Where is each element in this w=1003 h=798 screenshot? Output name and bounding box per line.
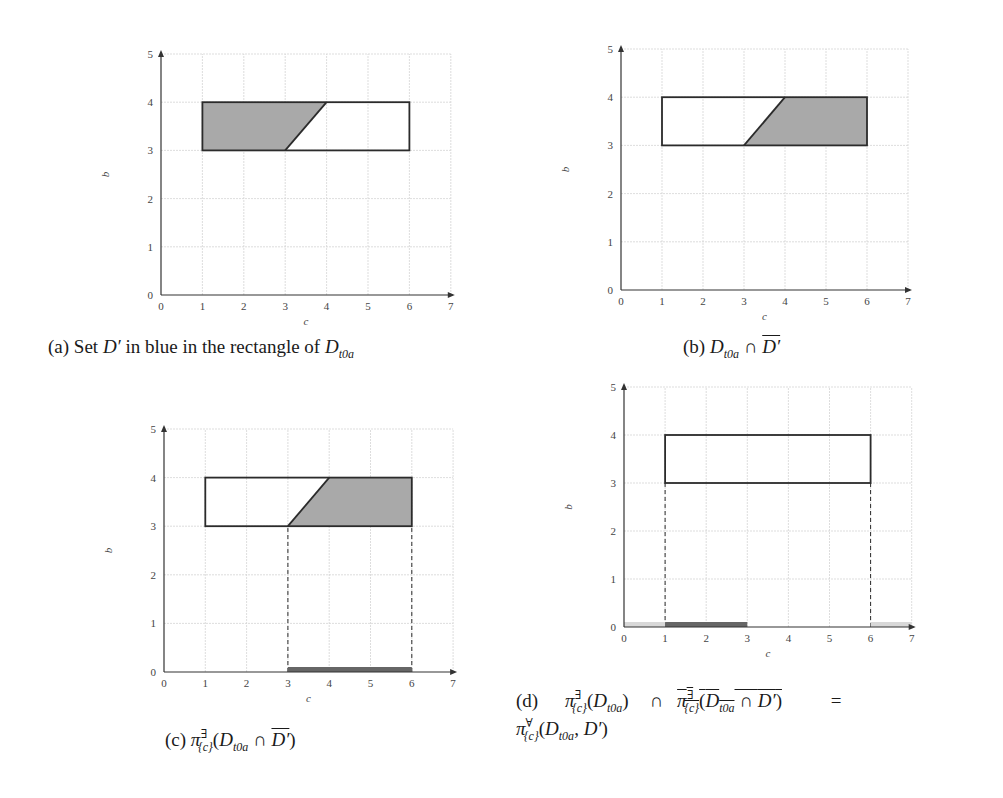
y-tick-label: 3 (148, 144, 154, 156)
caption-d-sub-3: t0a (559, 729, 574, 743)
caption-c: (c) π∃{c}(Dt0a ∩ D′) (165, 727, 296, 755)
caption-d-comma: , (574, 718, 584, 739)
rectangle-d-t0a (665, 435, 871, 483)
y-tick-label: 2 (611, 525, 617, 537)
x-tick-label: 7 (909, 632, 915, 644)
x-axis-arrow-icon (905, 287, 912, 293)
caption-d-psub-1: {c} (572, 701, 587, 715)
shaded-region (202, 102, 326, 150)
y-tick-label: 1 (151, 617, 157, 629)
x-tick-label: 7 (905, 295, 911, 307)
caption-a-base: D (325, 336, 339, 357)
x-tick-label: 0 (158, 300, 164, 312)
y-tick-label: 3 (151, 520, 157, 532)
caption-d-prefix: (d) (516, 690, 538, 711)
x-tick-label: 6 (868, 632, 874, 644)
x-tick-label: 2 (244, 677, 250, 689)
x-tick-label: 1 (662, 632, 668, 644)
caption-b-base: D (710, 336, 724, 357)
x-tick-label: 1 (200, 300, 206, 312)
x-tick-label: 7 (450, 677, 456, 689)
x-tick-label: 3 (745, 632, 751, 644)
x-axis-arrow-icon (450, 669, 457, 675)
y-axis-arrow-icon (621, 383, 627, 390)
x-tick-label: 0 (618, 295, 624, 307)
caption-d-inner-complement: D′ (758, 690, 776, 711)
caption-a-symbol: D′ (103, 336, 121, 357)
y-axis-label: b (99, 171, 111, 177)
y-tick-label: 5 (148, 48, 154, 60)
y-tick-label: 1 (611, 573, 617, 585)
subplot-b: 01234567012345cb (559, 43, 912, 322)
y-tick-label: 2 (151, 569, 157, 581)
x-tick-label: 4 (324, 300, 330, 312)
caption-d-close-1: ) (622, 690, 628, 711)
shaded-region (744, 97, 867, 145)
x-tick-label: 3 (741, 295, 747, 307)
caption-b-sub: t0a (724, 347, 739, 361)
caption-d-sup-2: ∃ (687, 688, 694, 702)
caption-d-base-3: D (545, 718, 559, 739)
caption-d-close-3: ) (602, 718, 608, 739)
x-tick-label: 2 (700, 295, 706, 307)
x-axis-label: c (303, 315, 308, 327)
projection-bar-dark (665, 622, 747, 627)
y-axis-label: b (562, 504, 574, 510)
x-tick-label: 5 (823, 295, 829, 307)
caption-b-prefix: (b) (683, 336, 710, 357)
caption-d-complement-term: π∃{c}(Dt0a ∩ D′) (677, 690, 782, 711)
projection-bar-light (871, 622, 912, 627)
x-tick-label: 5 (827, 632, 833, 644)
caption-c-base: D (219, 729, 233, 750)
caption-d-sup-3: ∀ (526, 716, 533, 730)
x-tick-label: 6 (407, 300, 413, 312)
subplot-d: 01234567012345cb (562, 381, 916, 659)
y-tick-label: 2 (148, 193, 154, 205)
caption-b-complement: D′ (762, 336, 780, 357)
caption-d-sub-1: t0a (607, 701, 622, 715)
x-tick-label: 6 (864, 295, 870, 307)
x-tick-label: 1 (203, 677, 209, 689)
caption-d-inner-op: ∩ (735, 690, 758, 711)
caption-a-sub: t0a (339, 347, 354, 361)
caption-d-sup-1: ∃ (574, 688, 581, 702)
y-tick-label: 1 (148, 241, 154, 253)
x-tick-label: 4 (786, 632, 792, 644)
x-axis-arrow-icon (448, 292, 455, 298)
y-tick-label: 3 (611, 477, 617, 489)
y-tick-label: 4 (608, 91, 614, 103)
caption-d-dprime: D′ (584, 718, 602, 739)
caption-c-scripts: ∃ (200, 727, 207, 751)
caption-a: (a) Set D′ in blue in the rectangle of D… (48, 336, 354, 362)
x-axis-label: c (306, 692, 311, 704)
x-tick-label: 5 (368, 677, 374, 689)
x-tick-label: 3 (285, 677, 291, 689)
y-tick-label: 1 (608, 236, 614, 248)
y-tick-label: 4 (151, 472, 157, 484)
y-axis-label: b (559, 166, 571, 172)
x-axis-label: c (762, 310, 767, 322)
y-tick-label: 2 (608, 188, 614, 200)
x-tick-label: 0 (161, 677, 167, 689)
caption-d-sub-2: t0a (719, 701, 734, 715)
caption-d-close-2: ) (776, 690, 782, 711)
caption-d-psub-3: {c} (524, 729, 539, 743)
subplot-a: 01234567012345cb (99, 48, 455, 327)
caption-d-base-1: D (593, 690, 607, 711)
y-tick-label: 4 (611, 429, 617, 441)
caption-c-sub: t0a (233, 740, 248, 754)
projection-bar-light (624, 622, 665, 627)
caption-d-line1: (d) π∃{c}(Dt0a) ∩π∃{c}(Dt0a ∩ D′) = (516, 688, 841, 716)
y-axis-label: b (102, 547, 114, 553)
plot-a: 01234567012345cb01234567012345cb01234567… (0, 0, 1003, 798)
y-tick-label: 0 (608, 284, 614, 296)
shaded-region (288, 478, 412, 527)
caption-d-op: ∩ (649, 690, 663, 711)
y-tick-label: 5 (611, 381, 617, 393)
caption-c-sup: ∃ (200, 727, 207, 741)
x-axis-label: c (765, 647, 770, 659)
y-tick-label: 0 (148, 289, 154, 301)
caption-c-complement: D′ (271, 729, 289, 750)
y-axis-arrow-icon (618, 45, 624, 52)
x-tick-label: 2 (241, 300, 247, 312)
